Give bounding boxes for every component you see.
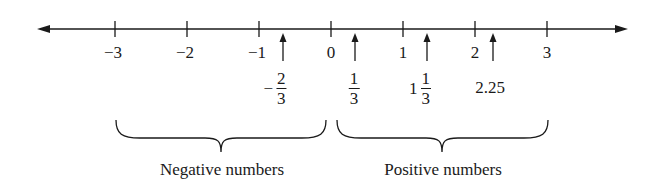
fraction: 1 3: [421, 70, 432, 107]
left-arrowhead-icon: [37, 25, 50, 33]
denominator: 3: [276, 89, 287, 107]
whole-part: 1: [409, 80, 418, 97]
right-arrowhead-icon: [615, 25, 628, 33]
positive-brace-icon: [337, 120, 548, 152]
numerator: 1: [349, 70, 360, 88]
point-label-one-and-one-third: 1 1 3: [409, 70, 431, 107]
numerator: 2: [276, 70, 287, 88]
point-label-neg-two-thirds: − 2 3: [263, 70, 286, 107]
up-arrow-icon: [352, 33, 359, 61]
tick-label: −1: [248, 44, 266, 61]
up-arrow-icon: [280, 33, 287, 61]
number-line-graphics: [0, 0, 659, 186]
number-line-diagram: −3 −2 −1 0 1 2 3 − 2 3 1 3 1 1 3 2.25 Ne…: [0, 0, 659, 186]
up-arrow-icon: [490, 33, 497, 61]
negative-brace-icon: [116, 120, 326, 152]
up-arrow-icon: [424, 33, 431, 61]
numerator: 1: [421, 70, 432, 88]
tick-label: −3: [104, 44, 122, 61]
fraction: 2 3: [276, 70, 287, 107]
minus-sign: −: [263, 80, 273, 97]
tick-label: 2: [471, 44, 480, 61]
tick-label: 3: [543, 44, 552, 61]
negative-numbers-label: Negative numbers: [160, 160, 284, 180]
tick-label: −2: [176, 44, 194, 61]
tick-label: 1: [399, 44, 408, 61]
positive-numbers-label: Positive numbers: [384, 160, 502, 180]
tick-label: 0: [327, 44, 336, 61]
denominator: 3: [421, 89, 432, 107]
point-label-two-point-two-five: 2.25: [475, 79, 505, 96]
fraction: 1 3: [349, 70, 360, 107]
denominator: 3: [349, 89, 360, 107]
point-arrows: [280, 33, 497, 61]
point-label-one-third: 1 3: [349, 70, 360, 107]
